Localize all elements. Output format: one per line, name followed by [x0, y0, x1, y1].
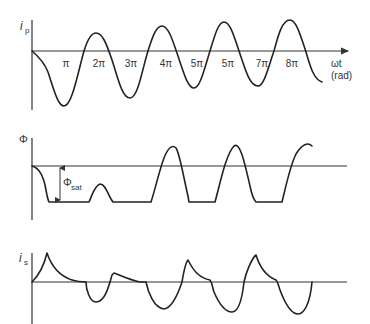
- ip-y-label-sub: p: [25, 26, 30, 35]
- is-y-label-sub: s: [24, 258, 28, 267]
- ip-tick-6: 5π: [222, 58, 235, 69]
- primary-current-panel: i p π 2π 3π 4π 5π 5π 7π 8π ωt (rad): [20, 19, 352, 110]
- waveform-diagram: i p π 2π 3π 4π 5π 5π 7π 8π ωt (rad) Φ Φ …: [0, 0, 370, 324]
- ip-x-unit: (rad): [331, 70, 352, 81]
- ip-tick-3: 3π: [125, 58, 138, 69]
- ip-tick-2: 2π: [93, 58, 106, 69]
- is-waveform: [32, 253, 312, 314]
- secondary-current-panel: i s: [19, 251, 347, 324]
- ip-y-label: i: [20, 19, 23, 33]
- flux-y-label: Φ: [19, 133, 28, 145]
- ip-tick-1: π: [63, 58, 70, 69]
- ip-tick-7: 7π: [256, 58, 269, 69]
- is-y-label: i: [19, 251, 22, 265]
- ip-waveform: [32, 20, 322, 106]
- ip-tick-8: 8π: [286, 58, 299, 69]
- ip-tick-4: 4π: [160, 58, 173, 69]
- ip-tick-5: 5π: [191, 58, 204, 69]
- flux-waveform: [32, 144, 312, 202]
- flux-sat-sub: sat: [71, 183, 82, 192]
- ip-x-label: ωt: [331, 58, 342, 69]
- flux-panel: Φ Φ sat: [19, 133, 347, 220]
